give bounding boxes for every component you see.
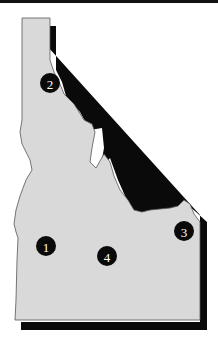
marker-2[interactable]: 2 <box>40 73 60 93</box>
marker-4-label: 4 <box>104 250 111 265</box>
marker-1-label: 1 <box>43 240 50 255</box>
marker-4[interactable]: 4 <box>97 246 117 266</box>
marker-3-label: 3 <box>181 225 188 240</box>
idaho-map: 1 2 3 4 <box>0 0 218 338</box>
marker-1[interactable]: 1 <box>36 236 56 256</box>
marker-3[interactable]: 3 <box>174 221 194 241</box>
marker-2-label: 2 <box>47 77 54 92</box>
state-outline <box>14 18 200 320</box>
